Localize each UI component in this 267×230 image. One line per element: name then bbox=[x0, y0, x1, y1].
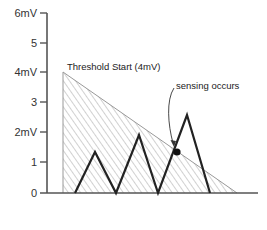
tick-label-1: 1 bbox=[31, 156, 37, 168]
tick-label-4mv: 4mV bbox=[14, 66, 37, 78]
tick-label-6mv: 6mV bbox=[14, 7, 37, 19]
sensing-point-marker bbox=[173, 148, 180, 155]
threshold-start-label: Threshold Start (4mV) bbox=[67, 61, 160, 72]
threshold-sensing-diagram: 6mV 5 4mV 3 2mV 1 0 Threshold Start (4mV… bbox=[0, 0, 267, 230]
tick-label-5: 5 bbox=[31, 37, 37, 49]
sensing-occurs-label: sensing occurs bbox=[176, 80, 240, 91]
y-axis-ticks bbox=[40, 13, 47, 162]
tick-label-2mv: 2mV bbox=[14, 126, 37, 138]
tick-label-3: 3 bbox=[31, 96, 37, 108]
tick-label-0: 0 bbox=[31, 187, 37, 199]
sensing-annotation-arrow bbox=[169, 88, 174, 143]
